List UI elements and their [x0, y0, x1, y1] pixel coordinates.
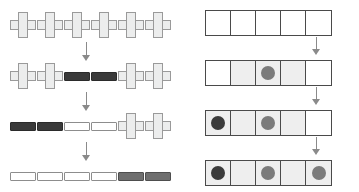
arrow-head	[312, 149, 320, 155]
down-arrow-icon	[312, 137, 321, 155]
figure-canvas	[0, 0, 359, 192]
dot-marker-icon	[261, 66, 275, 80]
cross-shape-icon	[91, 12, 117, 38]
cell-strip	[205, 60, 332, 86]
grid-cell	[306, 161, 331, 185]
bar-shape-icon	[10, 122, 36, 131]
bar-shape-icon	[91, 172, 117, 181]
shape-row	[0, 12, 180, 46]
arrow-head	[82, 55, 90, 61]
bar-shape-icon	[64, 122, 90, 131]
bar-shape-icon	[64, 172, 90, 181]
cross-center	[154, 72, 162, 80]
grid-cell	[256, 61, 281, 85]
arrow-head	[82, 155, 90, 161]
bar-shape-icon	[91, 122, 117, 131]
grid-cell	[206, 161, 231, 185]
cross-shape-icon	[118, 12, 144, 38]
cell-strip	[205, 10, 332, 36]
dot-marker-icon	[312, 166, 326, 180]
bar-shape-icon	[91, 72, 117, 81]
cross-center	[19, 72, 27, 80]
cross-center	[100, 21, 108, 29]
grid-cell	[231, 11, 256, 35]
down-arrow-icon	[312, 87, 321, 105]
cross-center	[46, 72, 54, 80]
cross-shape-icon	[37, 12, 63, 38]
cell-strip	[205, 160, 332, 186]
bar-shape-icon	[37, 172, 63, 181]
down-arrow-icon	[82, 42, 91, 61]
grid-cell	[231, 111, 256, 135]
cell-strip	[205, 110, 332, 136]
cross-shape-icon	[145, 12, 171, 38]
cross-center	[46, 21, 54, 29]
cross-shape-icon	[10, 12, 36, 38]
dot-marker-icon	[211, 166, 225, 180]
cross-shape-icon	[118, 63, 144, 89]
cross-center	[127, 21, 135, 29]
cross-center	[19, 21, 27, 29]
grid-cell	[256, 161, 281, 185]
cross-shape-icon	[37, 63, 63, 89]
arrow-shaft	[316, 37, 317, 49]
grid-cell	[306, 111, 331, 135]
down-arrow-icon	[312, 37, 321, 55]
arrow-head	[312, 99, 320, 105]
dot-marker-icon	[261, 166, 275, 180]
grid-cell	[256, 11, 281, 35]
grid-cell	[306, 61, 331, 85]
shape-row	[0, 163, 180, 192]
down-arrow-icon	[82, 142, 91, 161]
dot-marker-icon	[211, 116, 225, 130]
cross-center	[127, 72, 135, 80]
down-arrow-icon	[82, 92, 91, 111]
arrow-shaft	[316, 137, 317, 149]
panel-grid-dot-sequence	[180, 0, 359, 192]
cross-center	[154, 122, 162, 130]
grid-cell	[281, 61, 306, 85]
grid-cell	[206, 111, 231, 135]
cross-center	[127, 122, 135, 130]
bar-shape-icon	[37, 122, 63, 131]
arrow-head	[82, 105, 90, 111]
cross-shape-icon	[118, 113, 144, 139]
arrow-shaft	[86, 42, 87, 55]
grid-cell	[206, 11, 231, 35]
arrow-shaft	[86, 142, 87, 155]
grid-cell	[231, 161, 256, 185]
grid-cell	[206, 61, 231, 85]
arrow-head	[312, 49, 320, 55]
dot-marker-icon	[261, 116, 275, 130]
grid-cell	[231, 61, 256, 85]
cross-center	[73, 21, 81, 29]
cross-center	[154, 21, 162, 29]
grid-cell	[281, 11, 306, 35]
cross-shape-icon	[10, 63, 36, 89]
cross-shape-icon	[145, 63, 171, 89]
arrow-shaft	[86, 92, 87, 105]
panel-cross-bar-sequence	[0, 0, 180, 192]
bar-shape-icon	[10, 172, 36, 181]
grid-cell	[306, 11, 331, 35]
cross-shape-icon	[64, 12, 90, 38]
bar-shape-icon	[64, 72, 90, 81]
bar-shape-icon	[145, 172, 171, 181]
arrow-shaft	[316, 87, 317, 99]
grid-cell	[281, 111, 306, 135]
bar-shape-icon	[118, 172, 144, 181]
grid-cell	[256, 111, 281, 135]
grid-cell	[281, 161, 306, 185]
cross-shape-icon	[145, 113, 171, 139]
